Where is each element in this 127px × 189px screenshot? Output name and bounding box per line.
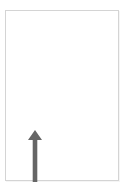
- blank-page: [5, 10, 119, 181]
- screenshot-root: [0, 0, 127, 189]
- arrow-up-icon: [28, 130, 42, 182]
